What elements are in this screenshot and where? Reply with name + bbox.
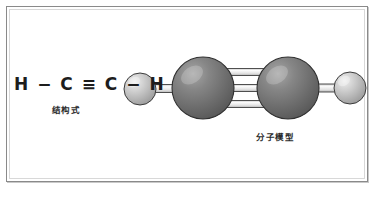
structural-formula-text: H − C ≡ C − H — [14, 74, 118, 94]
structural-formula-block: H − C ≡ C − H 结构式 — [14, 74, 118, 116]
structural-formula-caption: 结构式 — [14, 105, 118, 116]
figure-root: H − C ≡ C − H 结构式 分子模型 — [0, 0, 384, 202]
atom-carbon-left — [172, 57, 234, 119]
atom-hydrogen-right — [334, 72, 366, 104]
atom-carbon-right — [257, 57, 319, 119]
molecular-model-caption: 分子模型 — [256, 130, 294, 142]
